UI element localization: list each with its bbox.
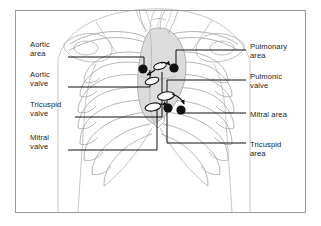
label-tricuspid-area: Tricuspid area	[250, 140, 281, 159]
aortic-area-dot	[138, 64, 147, 73]
label-tricuspid-valve: Tricuspid valve	[30, 100, 61, 119]
label-aortic-valve: Aortic valve	[30, 70, 50, 89]
label-pulmonary-area: Pulmonary area	[250, 42, 287, 61]
tricuspid-area-dot	[163, 103, 172, 112]
label-mitral-area: Mitral area	[250, 110, 287, 119]
label-mitral-valve: Mitral valve	[30, 133, 49, 152]
label-aortic-area: Aortic area	[30, 40, 50, 59]
auscultation-diagram: Aortic area Aortic valve Tricuspid valve…	[0, 0, 321, 226]
label-pulmonic-valve: Pulmonic valve	[250, 72, 282, 91]
mitral-area-dot	[176, 105, 185, 114]
pulmonary-area-dot	[169, 63, 178, 72]
